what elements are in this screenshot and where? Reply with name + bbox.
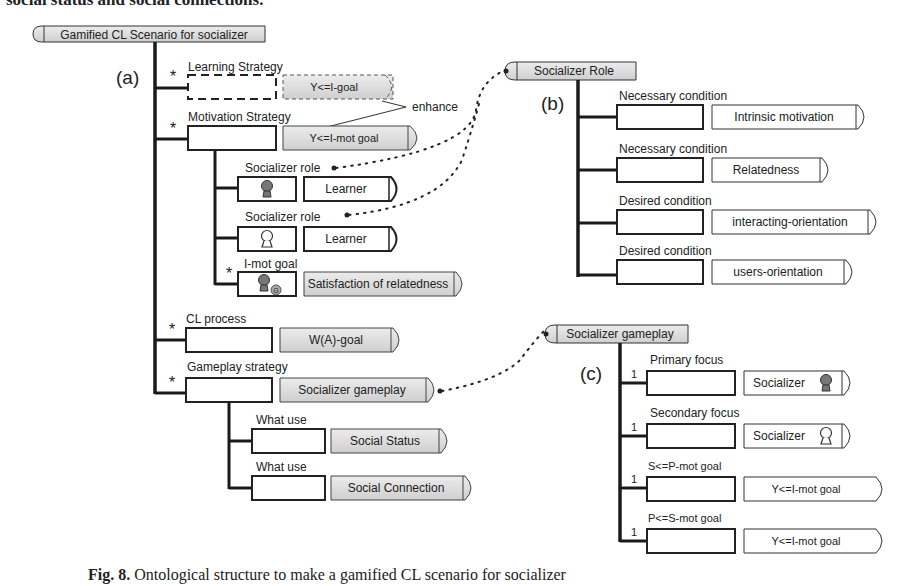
slot-c-1[interactable] bbox=[647, 371, 735, 395]
value-label: W(A)-goal bbox=[309, 333, 363, 347]
value-label: Socializer gameplay bbox=[298, 383, 405, 397]
role-desired-condition-1: Desired condition bbox=[619, 194, 712, 208]
role-learning-strategy: Learning Strategy bbox=[188, 60, 283, 74]
cardinality-one: 1 bbox=[631, 368, 637, 380]
cardinality-one: 1 bbox=[631, 473, 637, 485]
slot-cl-process[interactable] bbox=[186, 328, 272, 352]
cardinality-star: * bbox=[170, 120, 176, 137]
cardinality-one: 1 bbox=[631, 526, 637, 538]
value-learner-1[interactable]: Learner bbox=[304, 177, 397, 201]
value-y-i-mot-goal[interactable]: Y<=I-mot goal bbox=[283, 126, 417, 150]
slot-b-3[interactable] bbox=[617, 210, 703, 234]
value-label: Y<=I-mot goal bbox=[771, 535, 840, 547]
role-socializer-role-1: Socializer role bbox=[245, 161, 321, 175]
caption-label: Fig. 8. bbox=[88, 566, 130, 583]
slot-c-2[interactable] bbox=[647, 424, 735, 448]
role-socializer-role-2: Socializer role bbox=[245, 210, 321, 224]
role-motivation-strategy: Motivation Strategy bbox=[188, 110, 291, 124]
enhance-pointer bbox=[327, 101, 406, 127]
person-filled-icon bbox=[821, 375, 832, 392]
panel-a: Gamified CL Scenario for socializer (a) … bbox=[33, 26, 471, 500]
value-y-i-goal[interactable]: Y<=I-goal bbox=[283, 75, 393, 99]
root-concept-socializer-gameplay[interactable]: Socializer gameplay bbox=[544, 325, 689, 343]
value-socializer-primary[interactable]: Socializer bbox=[744, 371, 850, 395]
slot-motivation-strategy[interactable] bbox=[188, 126, 276, 150]
root-concept-label: Gamified CL Scenario for socializer bbox=[60, 28, 248, 42]
value-label: interacting-orientation bbox=[732, 215, 847, 229]
root-concept-label: Socializer Role bbox=[534, 64, 614, 78]
value-relatedness[interactable]: Relatedness bbox=[712, 158, 828, 182]
value-label: Socializer bbox=[753, 429, 805, 443]
value-label: Socializer bbox=[753, 376, 805, 390]
value-social-status[interactable]: Social Status bbox=[331, 429, 447, 453]
value-label: Learner bbox=[325, 182, 366, 196]
value-label: Y<=I-mot goal bbox=[309, 132, 378, 144]
slot-b-2[interactable] bbox=[617, 158, 703, 182]
slot-gameplay-strategy[interactable] bbox=[186, 378, 272, 402]
person-outline-icon bbox=[821, 428, 832, 445]
person-filled-icon bbox=[262, 181, 273, 198]
value-y-i-mot-goal-c1[interactable]: Y<=I-mot goal bbox=[744, 477, 882, 501]
panel-b: Socializer Role (b) Necessary condition … bbox=[504, 62, 877, 284]
slot-c-4[interactable] bbox=[647, 529, 735, 553]
role-necessary-condition-2: Necessary condition bbox=[619, 142, 727, 156]
svg-text:G: G bbox=[273, 287, 278, 294]
slot-b-4[interactable] bbox=[617, 260, 703, 284]
cardinality-star: * bbox=[170, 68, 176, 85]
panel-c: Socializer gameplay (c) 1 Primary focus … bbox=[544, 325, 883, 553]
panel-a-label: (a) bbox=[116, 67, 139, 88]
value-socializer-secondary[interactable]: Socializer bbox=[744, 424, 850, 448]
cardinality-star: * bbox=[169, 321, 175, 338]
link-gameplay-to-c bbox=[442, 330, 545, 391]
root-concept-label: Socializer gameplay bbox=[566, 327, 673, 341]
value-socializer-gameplay[interactable]: Socializer gameplay bbox=[280, 378, 434, 402]
role-what-use-1: What use bbox=[256, 413, 307, 427]
root-concept-socializer-role[interactable]: Socializer Role bbox=[504, 62, 637, 80]
cardinality-star: * bbox=[226, 265, 232, 282]
role-gameplay-strategy: Gameplay strategy bbox=[187, 360, 288, 374]
person-outline-icon bbox=[262, 231, 273, 248]
value-social-connection[interactable]: Social Connection bbox=[331, 476, 471, 500]
role-secondary-focus: Secondary focus bbox=[650, 406, 739, 420]
value-satisfaction-of-relatedness[interactable]: Satisfaction of relatedness bbox=[304, 272, 462, 296]
slot-c-3[interactable] bbox=[647, 477, 735, 501]
value-label: Learner bbox=[325, 232, 366, 246]
value-label: Y<=I-mot goal bbox=[771, 483, 840, 495]
value-label: Intrinsic motivation bbox=[734, 110, 833, 124]
cardinality-star: * bbox=[169, 374, 175, 391]
role-necessary-condition-1: Necessary condition bbox=[619, 89, 727, 103]
value-label: users-orientation bbox=[733, 265, 822, 279]
role-s-p-mot-goal: S<=P-mot goal bbox=[648, 460, 721, 472]
value-w-a-goal[interactable]: W(A)-goal bbox=[280, 328, 399, 352]
role-desired-condition-2: Desired condition bbox=[619, 244, 712, 258]
enhance-label: enhance bbox=[412, 100, 458, 114]
slot-what-use-2[interactable] bbox=[252, 476, 325, 500]
value-learner-2[interactable]: Learner bbox=[304, 227, 397, 251]
value-label: Y<=I-goal bbox=[310, 81, 358, 93]
role-p-s-mot-goal: P<=S-mot goal bbox=[648, 512, 721, 524]
value-interacting-orientation[interactable]: interacting-orientation bbox=[712, 210, 876, 234]
slot-learning-strategy[interactable] bbox=[188, 75, 276, 99]
value-label: Relatedness bbox=[733, 163, 800, 177]
value-users-orientation[interactable]: users-orientation bbox=[712, 260, 852, 284]
value-label: Social Connection bbox=[348, 481, 445, 495]
cardinality-one: 1 bbox=[631, 421, 637, 433]
value-label: Satisfaction of relatedness bbox=[308, 277, 449, 291]
value-y-i-mot-goal-c2[interactable]: Y<=I-mot goal bbox=[744, 529, 882, 553]
value-intrinsic-motivation[interactable]: Intrinsic motivation bbox=[712, 105, 864, 129]
role-what-use-2: What use bbox=[256, 460, 307, 474]
slot-what-use-1[interactable] bbox=[252, 429, 325, 453]
value-label: Social Status bbox=[350, 434, 420, 448]
slot-b-1[interactable] bbox=[617, 105, 703, 129]
root-concept-gamified-cl-scenario[interactable]: Gamified CL Scenario for socializer bbox=[33, 26, 265, 42]
role-i-mot-goal: I-mot goal bbox=[244, 257, 297, 271]
role-cl-process: CL process bbox=[186, 312, 246, 326]
panel-b-label: (b) bbox=[541, 93, 564, 114]
role-primary-focus: Primary focus bbox=[650, 353, 723, 367]
figure-caption: Fig. 8. Ontological structure to make a … bbox=[88, 566, 566, 584]
caption-text: Ontological structure to make a gamified… bbox=[134, 566, 566, 583]
panel-c-label: (c) bbox=[580, 363, 602, 384]
